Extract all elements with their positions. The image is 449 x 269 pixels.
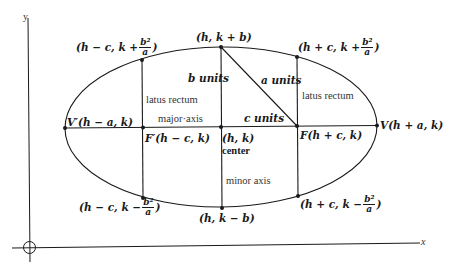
bottom-vertex-label: (h, k − b) <box>199 213 255 224</box>
lr-left-bottom-suffix: ) <box>155 201 160 213</box>
denominator: a <box>142 208 154 217</box>
right-vertex-label: V(h + a, k) <box>380 120 443 131</box>
lr-right-bottom-suffix: ) <box>376 198 381 210</box>
lr-right-top-prefix: (h + c, k + <box>298 41 360 53</box>
fraction: b²a <box>361 38 373 57</box>
point-right-focus <box>295 124 299 128</box>
minor-axis-label: minor axis <box>226 176 271 187</box>
center-label: center <box>222 146 250 157</box>
x-axis <box>12 243 420 248</box>
point-lr-left-top <box>140 58 144 62</box>
right-focus-label: F(h + c, k) <box>300 130 362 141</box>
point-right-vertex <box>375 124 379 128</box>
left-focus-label: F′(h − c, k) <box>145 133 210 144</box>
lr-right-top-suffix: ) <box>374 41 379 53</box>
lr-left-bottom-prefix: (h − c, k − <box>79 201 141 213</box>
lr-left-top-label: (h − c, k +b²a) <box>76 38 157 57</box>
lr-right-top-label: (h + c, k +b²a) <box>298 38 379 57</box>
lr-left-top-prefix: (h − c, k + <box>76 41 138 53</box>
y-axis <box>28 18 30 262</box>
point-center <box>219 125 223 129</box>
top-vertex-label: (h, k + b) <box>196 32 252 43</box>
fraction: b²a <box>142 198 154 217</box>
b-units-label: b units <box>188 73 229 84</box>
lr-left-bottom-label: (h − c, k −b²a) <box>79 198 160 217</box>
point-bottom-vertex <box>220 206 224 210</box>
x-axis-label: x <box>421 237 425 247</box>
point-left-focus <box>141 126 145 130</box>
major-axis-label: major·axis <box>158 114 203 125</box>
latus-rectum-left-label: latus rectum <box>146 95 198 106</box>
latus-rectum-right-label: latus rectum <box>302 91 354 102</box>
fraction: b²a <box>139 38 151 57</box>
c-units-label: c units <box>244 113 284 124</box>
y-axis-label: y <box>23 12 28 22</box>
denominator: a <box>361 48 373 57</box>
denominator: a <box>139 48 151 57</box>
a-units-label: a units <box>261 75 301 86</box>
left-vertex-label: V′(h − a, k) <box>67 117 133 128</box>
lr-left-top-suffix: ) <box>152 41 157 53</box>
fraction: b²a <box>363 195 375 214</box>
lr-right-bottom-label: (h + c, k −b²a) <box>300 195 381 214</box>
lr-right-bottom-prefix: (h + c, k − <box>300 198 362 210</box>
denominator: a <box>363 205 375 214</box>
point-top-vertex <box>219 45 223 49</box>
center-coords-label: (h, k) <box>222 133 254 144</box>
